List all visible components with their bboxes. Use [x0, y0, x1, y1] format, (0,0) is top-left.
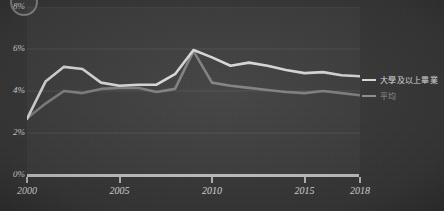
line-college-grad: [27, 50, 360, 119]
chart-plot-area: [27, 7, 360, 175]
legend-swatch-icon: [362, 79, 376, 81]
x-tick-label: 2015: [295, 185, 315, 196]
chart-legend: 大學及以上畢業平均: [362, 74, 438, 101]
y-tick-label: 6%: [3, 43, 25, 53]
x-tick-mark: [211, 177, 213, 183]
series-lines: [27, 7, 360, 175]
x-tick-label: 2010: [202, 185, 222, 196]
x-tick-mark: [119, 177, 121, 183]
y-tick-label: 0%: [3, 169, 25, 179]
legend-item-label: 大學及以上畢業: [380, 74, 438, 85]
y-tick-label: 2%: [3, 127, 25, 137]
x-tick-label: 2000: [17, 185, 37, 196]
x-tick-label: 2018: [350, 185, 370, 196]
legend-item[interactable]: 平均: [362, 90, 438, 101]
legend-swatch-icon: [362, 95, 376, 97]
x-tick-mark: [359, 177, 361, 183]
x-tick-mark: [26, 177, 28, 183]
line-average: [27, 51, 360, 118]
x-tick-mark: [304, 177, 306, 183]
legend-item-label: 平均: [380, 90, 397, 101]
x-axis-line: [27, 174, 359, 177]
gridlines: [27, 7, 360, 133]
y-tick-label: 4%: [3, 85, 25, 95]
legend-item[interactable]: 大學及以上畢業: [362, 74, 438, 85]
data-lines: [27, 50, 360, 119]
x-tick-label: 2005: [110, 185, 130, 196]
